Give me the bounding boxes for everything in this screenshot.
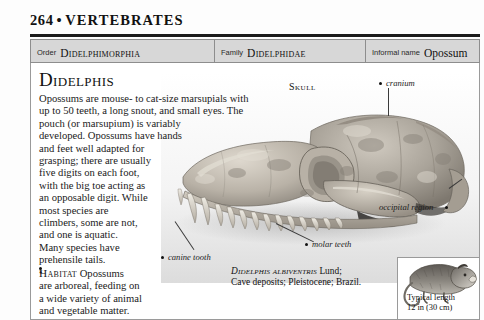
label-dot-occipital (445, 206, 448, 209)
habitat-line: a wide variety of animal (39, 293, 207, 305)
label-molar-teeth: molar teeth (312, 239, 351, 249)
body-line: grasping; there are usually (39, 155, 207, 167)
habitat-line: and vegetable matter. (39, 305, 207, 317)
figure-caption-skull: Skull (289, 81, 316, 92)
scale-caption: Typical length 12 in (30 cm) (407, 293, 455, 313)
habitat-keyword: Habitat (39, 267, 77, 279)
label-dot-molar (305, 243, 308, 246)
order-label: Order (37, 48, 56, 57)
running-head: 264•VERTEBRATES (30, 12, 184, 29)
body-line: five digits on each foot, (39, 167, 207, 179)
body-line: up to 50 teeth, a long snout, and small … (39, 105, 327, 117)
taxonomy-cell-order: Order Didelphimorphia (31, 40, 214, 62)
body-line: with the big toe acting as (39, 180, 207, 192)
body-line: an opposable digit. While (39, 192, 207, 204)
body-line: most species are (39, 205, 207, 217)
specimen-author: Lund; (317, 266, 342, 276)
body-line: pouch (or marsupium) is variably (39, 118, 207, 130)
body-line: developed. Opossums have hands (39, 130, 207, 142)
entry-frame: Didelphis Opossums are mouse- to cat-siz… (30, 63, 480, 320)
leader-line-cranium (388, 88, 389, 116)
folio-separator: • (54, 12, 66, 28)
habitat-text: Opossums (80, 268, 124, 279)
scale-box: Typical length 12 in (30 cm) (397, 257, 479, 319)
family-label: Family (221, 48, 243, 57)
body-line: Opossums are mouse- to cat-size marsupia… (39, 93, 327, 105)
body-line: and feet well adapted for (39, 143, 207, 155)
informal-name-value: Opossum (424, 47, 467, 59)
label-canine-tooth: canine tooth (168, 252, 211, 262)
taxonomy-cell-informal-name: Informal name Opossum (365, 40, 479, 62)
family-value: Didelphidae (247, 47, 306, 59)
informal-name-label: Informal name (372, 48, 420, 57)
specimen-provenance: Cave deposits; Pleistocene; Brazil. (231, 277, 361, 287)
habitat-bullet: • (39, 267, 42, 270)
taxonomy-banner: Order Didelphimorphia Family Didelphidae… (30, 39, 480, 63)
header-rule (30, 34, 480, 37)
label-dot-canine (161, 256, 164, 259)
habitat-line: are arboreal, feeding on (39, 280, 207, 292)
book-page: 264•VERTEBRATES Order Didelphimorphia Fa… (0, 0, 484, 320)
genus-heading: Didelphis (39, 69, 114, 91)
label-occipital-region: occipital region (379, 202, 433, 212)
specimen-caption: Didelphis albiventris Lund; Cave deposit… (231, 266, 416, 288)
label-cranium: cranium (386, 78, 415, 88)
order-value: Didelphimorphia (60, 47, 140, 59)
label-dot-cranium (379, 82, 382, 85)
specimen-scientific-name: Didelphis albiventris (231, 266, 317, 276)
body-line: climbers, some are not, (39, 217, 207, 229)
scale-line-1: Typical length (407, 293, 455, 302)
taxonomy-cell-family: Family Didelphidae (214, 40, 365, 62)
scale-line-2: 12 in (30 cm) (407, 303, 452, 312)
habitat-line: • Habitat Opossums (39, 267, 207, 280)
folio-number: 264 (30, 12, 54, 28)
running-head-title: VERTEBRATES (65, 12, 184, 28)
